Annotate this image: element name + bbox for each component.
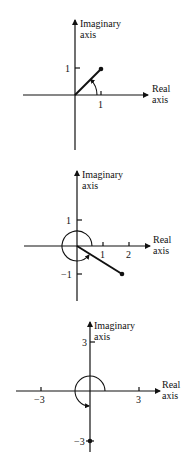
complex-plane-figures: Imaginary axis Real axis 1 1 Imaginary a… [0,0,192,476]
point [99,67,104,72]
figure-1: Imaginary axis Real axis 1 1 [23,18,171,150]
real-axis-label: Real [152,83,171,94]
point [120,272,125,277]
tick-label-y-1: −1 [61,269,72,280]
tick-label-x2: 2 [126,249,131,260]
tick-label-y1: 1 [65,63,70,74]
tick-label-x-3: −3 [34,394,45,405]
angle-arc [91,79,97,95]
imaginary-axis-label: Imaginary [82,169,123,180]
figure-3: Imaginary axis Real axis 3 −3 −3 3 [16,320,181,452]
imaginary-axis-label: Imaginary [80,18,121,29]
tick-label-y-3: −3 [74,436,85,447]
imaginary-axis-label-2: axis [82,180,98,191]
tick-label-y3: 3 [82,337,87,348]
tick-label-x1: 1 [100,249,105,260]
point [88,439,93,444]
tick-label-y1: 1 [66,215,71,226]
tick-label-x3: 3 [136,394,141,405]
real-axis-label-2: axis [153,245,169,256]
real-axis-label: Real [153,234,172,245]
imaginary-axis-label-2: axis [80,29,96,40]
imaginary-axis-label: Imaginary [94,320,135,331]
real-axis-label-2: axis [162,390,178,401]
figure-2: Imaginary axis Real axis 1 −1 1 2 [24,169,172,301]
real-axis-label-2: axis [152,94,168,105]
imaginary-axis-label-2: axis [94,331,110,342]
real-axis-label: Real [162,379,181,390]
tick-label-x1: 1 [98,99,103,110]
